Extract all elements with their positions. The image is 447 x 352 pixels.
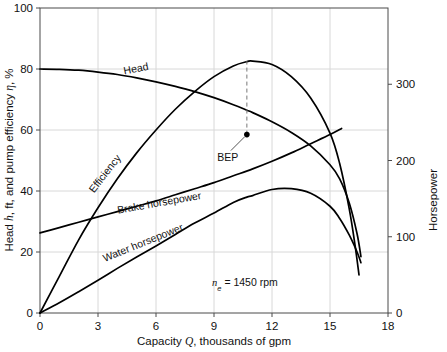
y2-tick-label: 300 [396,78,415,90]
y-tick-label: 100 [14,2,33,14]
x-tick-label: 3 [95,320,101,332]
y2-tick-label: 100 [396,231,415,243]
y-axis-title: Head h, ft, and pump efficiency η, % [3,68,16,251]
bep-point [244,132,250,138]
x-tick-label: 0 [37,320,43,332]
x-tick-label: 9 [211,320,217,332]
y-tick-label: 20 [20,246,33,258]
y2-tick-label: 0 [396,307,402,319]
y-tick-label: 80 [20,63,33,75]
y2-axis-title: Horsepower [427,169,439,231]
x-axis-title: Capacity Q, thousands of gpm [137,335,291,347]
x-tick-label: 12 [266,320,279,332]
y-tick-label: 60 [20,124,33,136]
y-tick-label: 0 [27,307,33,319]
y2-tick-label: 200 [396,155,415,167]
pump-performance-chart: 03691215180204060801000100200300 HeadEff… [0,0,447,352]
x-tick-label: 6 [153,320,159,332]
y-tick-label: 40 [20,185,33,197]
x-tick-label: 15 [324,320,337,332]
x-tick-label: 18 [382,320,395,332]
chart-canvas: 03691215180204060801000100200300 HeadEff… [0,0,447,352]
bep-label: BEP [217,151,238,163]
